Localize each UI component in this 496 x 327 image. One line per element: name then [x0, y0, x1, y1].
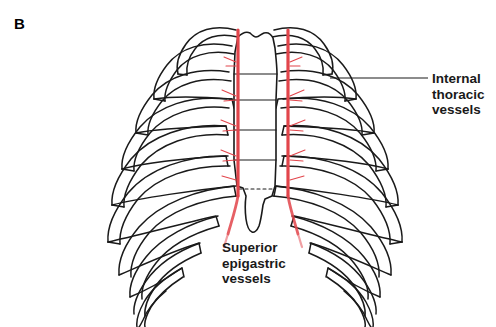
superior-epigastric-vessel-right: [288, 196, 302, 247]
anatomy-figure: B Internal thoracic vessels Superior epi…: [0, 0, 496, 327]
rib-cage-left: [108, 28, 238, 327]
panel-label-b: B: [14, 15, 25, 32]
sternum: [234, 32, 277, 232]
internal-thoracic-vessel-right: [288, 30, 305, 196]
label-internal-thoracic-vessels: Internal thoracic vessels: [432, 71, 485, 118]
label-superior-epigastric-vessels: Superior epigastric vessels: [222, 240, 286, 287]
rib-cage-right: [272, 28, 402, 327]
